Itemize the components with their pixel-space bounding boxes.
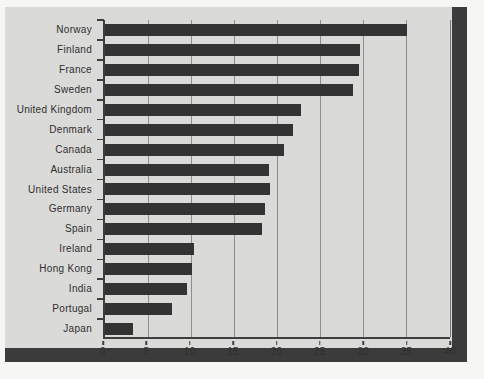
x-tick-5 [146,341,148,345]
page: { "colors": { "page_bg": "#f6f6f4", "car… [0,0,484,379]
chart-row-japan [105,319,450,339]
y-tick [97,179,104,181]
y-tick [97,159,104,161]
chart-row-hong-kong [105,259,450,279]
y-tick [97,278,104,280]
x-tick-0 [102,341,104,345]
bar-japan [105,323,133,335]
x-tick-40 [449,341,451,345]
bar-ireland [105,243,194,255]
x-tick-15 [232,341,234,345]
chart-row-australia [105,160,450,180]
chart-row-denmark [105,120,450,140]
x-tick-label-0: 0 [100,346,106,357]
x-tick-label-40: 40 [444,346,456,357]
chart-row-finland [105,40,450,60]
bar-germany [105,203,265,215]
category-label-france: France [5,60,103,80]
category-label-norway: Norway [5,20,103,40]
x-tick-20 [276,341,278,345]
x-tick-35 [406,341,408,345]
y-tick [97,19,104,21]
x-tick-25 [319,341,321,345]
category-label-hong-kong: Hong Kong [5,259,103,279]
bar-france [105,64,359,76]
x-tick-label-30: 30 [357,346,369,357]
x-tick-label-35: 35 [401,346,413,357]
chart-card: NorwayFinlandFranceSwedenUnited KingdomD… [5,7,467,362]
x-tick-label-15: 15 [227,346,239,357]
bar-sweden [105,84,353,96]
chart-row-united-kingdom [105,100,450,120]
chart-row-portugal [105,299,450,319]
x-tick-label-10: 10 [184,346,196,357]
category-label-japan: Japan [5,319,103,339]
y-tick [97,239,104,241]
plot-area [103,20,450,339]
category-label-germany: Germany [5,199,103,219]
category-label-sweden: Sweden [5,80,103,100]
category-label-united-kingdom: United Kingdom [5,100,103,120]
category-label-denmark: Denmark [5,120,103,140]
bar-india [105,283,187,295]
y-tick [97,219,104,221]
x-tick-label-5: 5 [143,346,149,357]
bar-united-states [105,183,270,195]
bar-denmark [105,124,293,136]
chart-row-canada [105,140,450,160]
bar-australia [105,164,269,176]
x-tick-label-25: 25 [314,346,326,357]
x-tick-label-20: 20 [271,346,283,357]
bar-united-kingdom [105,104,301,116]
x-tick-10 [189,341,191,345]
chart-row-india [105,279,450,299]
y-tick [97,119,104,121]
chart-row-france [105,60,450,80]
y-tick [97,79,104,81]
bar-portugal [105,303,172,315]
bar-norway [105,24,407,36]
category-label-canada: Canada [5,140,103,160]
y-tick [97,259,104,261]
category-label-australia: Australia [5,160,103,180]
y-tick [97,318,104,320]
chart-row-ireland [105,239,450,259]
chart-row-sweden [105,80,450,100]
category-axis: NorwayFinlandFranceSwedenUnited KingdomD… [5,20,103,339]
y-tick [97,139,104,141]
x-tick-30 [363,341,365,345]
y-tick [97,59,104,61]
category-label-united-states: United States [5,180,103,200]
bar-hong-kong [105,263,192,275]
category-label-spain: Spain [5,219,103,239]
chart-row-spain [105,219,450,239]
y-tick [97,199,104,201]
y-tick [97,39,104,41]
category-label-finland: Finland [5,40,103,60]
y-tick [97,298,104,300]
chart-row-germany [105,199,450,219]
chart-row-united-states [105,180,450,200]
chart-row-norway [105,20,450,40]
bar-finland [105,44,360,56]
category-label-india: India [5,279,103,299]
bar-rows [105,20,450,339]
bar-spain [105,223,262,235]
bar-canada [105,144,284,156]
x-axis: 0510152025303540 [103,341,450,363]
category-label-portugal: Portugal [5,299,103,319]
y-tick [97,99,104,101]
category-label-ireland: Ireland [5,239,103,259]
